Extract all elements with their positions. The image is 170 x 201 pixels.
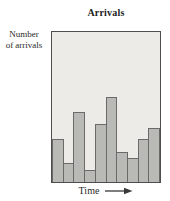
chart-title: Arrivals — [51, 7, 161, 18]
x-axis-label-text: Time — [79, 185, 100, 196]
y-axis-label-line2: of arrivals — [6, 40, 43, 50]
plot-area — [51, 31, 161, 183]
right-arrow-icon — [105, 187, 133, 195]
y-axis-label: Number of arrivals — [0, 29, 48, 51]
y-axis-label-line1: Number — [9, 29, 39, 39]
arrivals-bar-chart-figure: Arrivals Number of arrivals Time — [0, 0, 170, 201]
bars-container — [52, 32, 160, 182]
bar-10 — [148, 128, 160, 182]
x-axis-label: Time — [51, 185, 161, 196]
